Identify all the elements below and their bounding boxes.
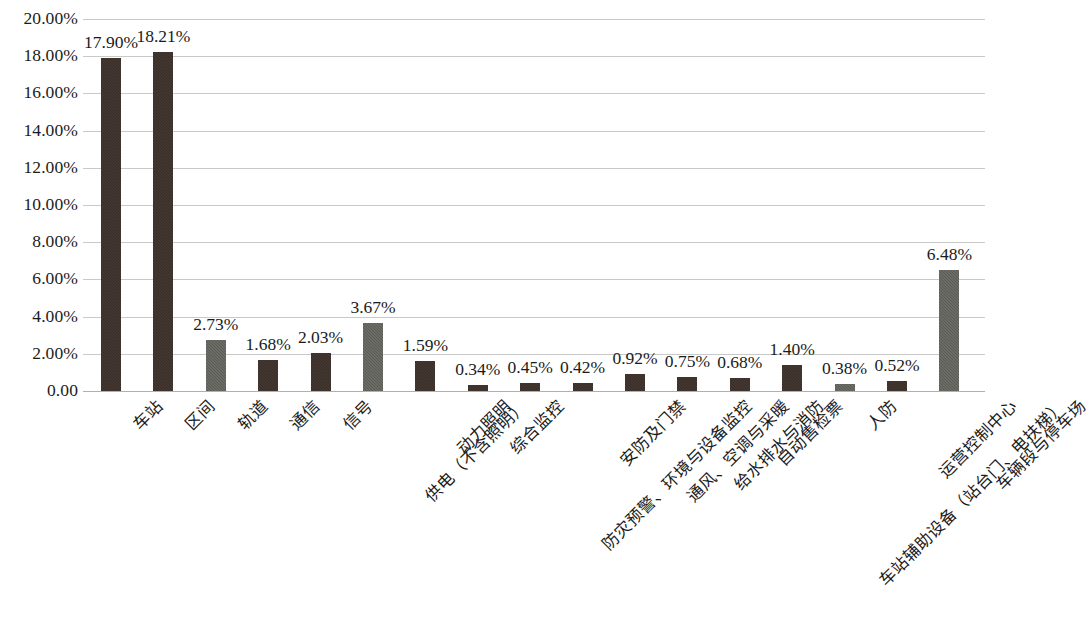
bar-value-label: 0.38%: [822, 360, 867, 378]
y-axis-tick-label: 20.00%: [0, 10, 78, 28]
y-axis-tick-label: 10.00%: [0, 196, 78, 214]
bar[interactable]: [206, 340, 226, 391]
y-axis-tick-labels: 0.002.00%4.00%6.00%8.00%10.00%12.00%14.0…: [0, 10, 78, 391]
x-axis-category-label: 通信: [287, 397, 323, 433]
bar[interactable]: [730, 378, 750, 391]
bar[interactable]: [520, 383, 540, 391]
x-axis-category-label: 人防: [864, 397, 900, 433]
y-axis-tick-label: 18.00%: [0, 47, 78, 65]
x-axis-category-label: 车站: [130, 397, 166, 433]
bar[interactable]: [835, 384, 855, 391]
bar-value-label: 1.68%: [246, 336, 291, 354]
bar[interactable]: [258, 360, 278, 391]
bar-value-label: 0.45%: [508, 359, 553, 377]
x-axis-category-label: 轨道: [235, 397, 271, 433]
bar[interactable]: [677, 377, 697, 391]
y-axis-tick-label: 4.00%: [0, 308, 78, 326]
y-axis-tick-label: 2.00%: [0, 345, 78, 363]
y-axis-tick-label: 6.00%: [0, 270, 78, 288]
bar[interactable]: [939, 270, 959, 391]
bar-value-label: 1.40%: [770, 341, 815, 359]
bar[interactable]: [415, 361, 435, 391]
y-axis-tick-label: 14.00%: [0, 122, 78, 140]
x-axis-category-labels: 车站区间轨道通信信号供电（不含照明）动力照明综合监控防灾预警、环境与设备监控安防…: [0, 391, 989, 631]
bar-value-label: 18.21%: [136, 28, 190, 46]
y-axis-tick-label: 16.00%: [0, 84, 78, 102]
x-axis-category-label: 车站辅助设备（站台门、电扶梯）: [876, 397, 1069, 590]
bar-value-label: 6.48%: [927, 246, 972, 264]
bar-value-label: 0.92%: [612, 350, 657, 368]
bar[interactable]: [153, 52, 173, 391]
x-axis-category-label: 区间: [182, 397, 218, 433]
y-axis-tick-label: 12.00%: [0, 159, 78, 177]
bar[interactable]: [887, 381, 907, 391]
bar[interactable]: [363, 323, 383, 391]
bars-layer: 17.90%18.21%2.73%1.68%2.03%3.67%1.59%0.3…: [83, 10, 985, 391]
bar[interactable]: [573, 383, 593, 391]
bar[interactable]: [311, 353, 331, 391]
x-axis-category-label: 安防及门禁: [616, 397, 688, 469]
bar-value-label: 1.59%: [403, 337, 448, 355]
bar[interactable]: [782, 365, 802, 391]
bar-value-label: 2.73%: [193, 316, 238, 334]
bar-value-label: 17.90%: [84, 34, 138, 52]
bar[interactable]: [625, 374, 645, 391]
bar-value-label: 0.52%: [874, 357, 919, 375]
bar[interactable]: [101, 58, 121, 391]
bar-value-label: 0.75%: [665, 353, 710, 371]
bar-value-label: 3.67%: [350, 299, 395, 317]
bar-value-label: 0.68%: [717, 354, 762, 372]
bar-value-label: 0.42%: [560, 359, 605, 377]
x-axis-category-label: 信号: [340, 397, 376, 433]
bar-value-label: 0.34%: [455, 361, 500, 379]
bar-value-label: 2.03%: [298, 329, 343, 347]
y-axis-tick-label: 8.00%: [0, 233, 78, 251]
